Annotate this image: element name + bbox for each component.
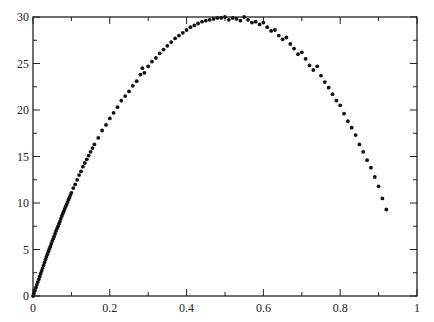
data-point <box>300 50 304 54</box>
data-point <box>242 15 246 19</box>
data-point <box>40 269 44 273</box>
data-point <box>215 16 219 20</box>
data-point <box>51 237 55 241</box>
data-point <box>369 166 373 170</box>
data-point <box>335 99 339 103</box>
data-point <box>288 42 292 46</box>
data-point <box>100 129 104 133</box>
data-point <box>381 197 385 201</box>
data-point <box>123 94 127 98</box>
y-axis-tick-labels: 051015202530 <box>17 10 29 303</box>
x-tick-label: 0.4 <box>179 301 194 315</box>
y-tick-label: 25 <box>17 57 29 71</box>
data-point <box>69 193 73 197</box>
data-point <box>73 183 77 187</box>
data-points <box>31 15 388 298</box>
x-tick-label: 0 <box>30 301 36 315</box>
y-axis-ticks <box>33 17 417 296</box>
data-point <box>141 66 145 70</box>
data-point <box>57 222 61 226</box>
x-axis-ticks <box>33 17 417 296</box>
data-point <box>223 15 227 19</box>
data-point <box>83 161 87 165</box>
data-point <box>85 157 89 161</box>
data-point <box>285 36 289 40</box>
data-point <box>53 232 57 236</box>
data-point <box>250 21 254 25</box>
scatter-chart: 00.20.40.60.81 051015202530 <box>0 0 434 322</box>
data-point <box>296 52 300 56</box>
data-point <box>112 111 116 115</box>
data-point <box>311 68 315 72</box>
data-point <box>71 186 75 190</box>
data-point <box>96 136 100 140</box>
data-point <box>34 286 38 290</box>
y-tick-label: 0 <box>23 289 29 303</box>
data-point <box>219 16 223 20</box>
data-point <box>173 37 177 41</box>
data-point <box>146 64 150 68</box>
data-point <box>119 99 123 103</box>
data-point <box>91 146 95 150</box>
data-point <box>158 51 162 55</box>
data-point <box>61 212 65 216</box>
y-tick-label: 10 <box>17 196 29 210</box>
data-point <box>327 86 331 90</box>
data-point <box>308 64 312 68</box>
data-point <box>200 20 204 24</box>
data-point <box>87 154 91 158</box>
data-point <box>139 73 143 77</box>
data-point <box>384 208 388 212</box>
data-point <box>358 143 362 147</box>
data-point <box>227 18 231 22</box>
data-point <box>38 275 42 279</box>
x-axis-tick-labels: 00.20.40.60.81 <box>30 301 420 315</box>
data-point <box>65 203 69 207</box>
data-point <box>154 56 158 60</box>
data-point <box>246 18 250 22</box>
data-point <box>189 25 193 29</box>
data-point <box>177 34 181 38</box>
data-point <box>47 247 51 251</box>
data-point <box>254 20 258 24</box>
data-point <box>331 92 335 96</box>
plot-frame <box>33 17 417 296</box>
data-point <box>116 105 120 109</box>
x-tick-label: 0.8 <box>333 301 348 315</box>
data-point <box>32 291 36 295</box>
data-point <box>273 28 277 32</box>
data-point <box>89 150 93 154</box>
data-point <box>46 252 50 256</box>
data-point <box>104 123 108 127</box>
data-point <box>59 217 63 221</box>
data-point <box>304 57 308 61</box>
data-point <box>208 18 212 22</box>
data-point <box>143 71 147 75</box>
y-tick-label: 30 <box>17 10 29 24</box>
data-point <box>265 25 269 29</box>
data-point <box>212 17 216 21</box>
data-point <box>75 178 79 182</box>
data-point <box>131 84 135 88</box>
data-point <box>354 133 358 137</box>
data-point <box>55 227 59 231</box>
data-point <box>292 47 296 51</box>
data-point <box>204 19 208 23</box>
x-tick-label: 0.2 <box>102 301 117 315</box>
data-point <box>67 198 71 202</box>
data-point <box>135 79 139 83</box>
data-point <box>162 48 166 52</box>
data-point <box>338 103 342 107</box>
data-point <box>77 173 81 177</box>
data-point <box>365 158 369 162</box>
data-point <box>258 23 262 27</box>
y-tick-label: 20 <box>17 103 29 117</box>
data-point <box>185 28 189 32</box>
data-point <box>181 31 185 35</box>
data-point <box>239 19 243 23</box>
data-point <box>342 112 346 116</box>
data-point <box>42 263 46 267</box>
data-point <box>192 24 196 28</box>
data-point <box>81 165 85 169</box>
data-point <box>319 74 323 78</box>
